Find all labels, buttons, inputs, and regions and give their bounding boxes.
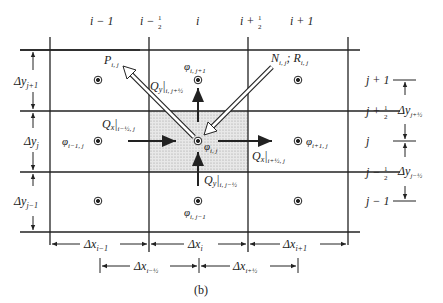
node — [294, 197, 302, 205]
svg-text:i + 1: i + 1 — [290, 14, 313, 28]
column-labels: i − 1 i − 1 2 i i + 1 2 i + 1 — [90, 14, 313, 31]
right-dimensions — [393, 80, 416, 201]
svg-text:Δyj: Δyj — [23, 134, 39, 150]
svg-text:φi+1, j: φi+1, j — [306, 135, 328, 150]
svg-text:j − 1: j − 1 — [364, 194, 389, 208]
node — [194, 76, 202, 84]
node — [194, 197, 202, 205]
svg-text:j: j — [364, 134, 370, 148]
svg-text:2: 2 — [384, 174, 388, 182]
svg-text:i −: i − — [140, 14, 154, 28]
bottom-dimension-labels: Δxi−1 Δxi Δxi+1 Δxi−½ Δxi+½ — [83, 237, 307, 275]
svg-text:i +: i + — [240, 14, 254, 28]
svg-text:Δyj−½: Δyj−½ — [397, 164, 423, 180]
svg-text:φi, j−1: φi, j−1 — [184, 206, 206, 221]
svg-text:1: 1 — [158, 14, 162, 22]
svg-text:Δxi: Δxi — [187, 237, 203, 253]
left-dimension-labels: Δyj+1 Δyj Δyj−1 — [13, 74, 39, 210]
svg-text:1: 1 — [384, 104, 388, 112]
svg-text:Qy|i, j−½: Qy|i, j−½ — [204, 173, 238, 189]
svg-text:Δxi+½: Δxi+½ — [232, 259, 258, 275]
svg-text:Pi, j: Pi, j — [103, 53, 119, 69]
svg-text:Δxi+1: Δxi+1 — [282, 237, 307, 253]
svg-text:Δyj+1: Δyj+1 — [13, 74, 38, 90]
svg-text:i − 1: i − 1 — [90, 14, 113, 28]
finite-difference-grid-diagram: i − 1 i − 1 2 i i + 1 2 i + 1 — [0, 0, 443, 303]
node — [94, 76, 102, 84]
svg-text:j +: j + — [364, 104, 380, 118]
svg-text:φi, j+1: φi, j+1 — [184, 60, 206, 75]
node — [94, 137, 102, 145]
svg-text:2: 2 — [258, 23, 262, 31]
svg-text:2: 2 — [384, 113, 388, 121]
svg-text:i: i — [196, 14, 199, 28]
svg-text:1: 1 — [384, 165, 388, 173]
node — [294, 137, 302, 145]
svg-text:1: 1 — [258, 14, 262, 22]
svg-text:Qy|i, j+½: Qy|i, j+½ — [150, 79, 184, 95]
svg-text:Δyj+½: Δyj+½ — [397, 103, 423, 119]
svg-text:Δxi−1: Δxi−1 — [83, 237, 108, 253]
svg-text:Qx|i−½, j: Qx|i−½, j — [102, 117, 135, 133]
svg-text:j + 1: j + 1 — [364, 73, 389, 87]
svg-text:Qx|i+½, j: Qx|i+½, j — [252, 149, 285, 165]
svg-text:Ni, j; Ri, j: Ni, j; Ri, j — [270, 51, 308, 67]
svg-text:Δxi−½: Δxi−½ — [133, 259, 159, 275]
node — [94, 197, 102, 205]
svg-text:φi−1, j: φi−1, j — [62, 135, 84, 150]
figure-caption: (b) — [194, 283, 208, 297]
svg-text:2: 2 — [158, 23, 162, 31]
svg-text:Δyj−1: Δyj−1 — [13, 194, 38, 210]
row-labels: j + 1 j + 1 2 j j − 1 2 j − 1 — [364, 73, 389, 208]
node-center — [194, 137, 202, 145]
node — [294, 76, 302, 84]
svg-text:j −: j − — [364, 165, 380, 179]
